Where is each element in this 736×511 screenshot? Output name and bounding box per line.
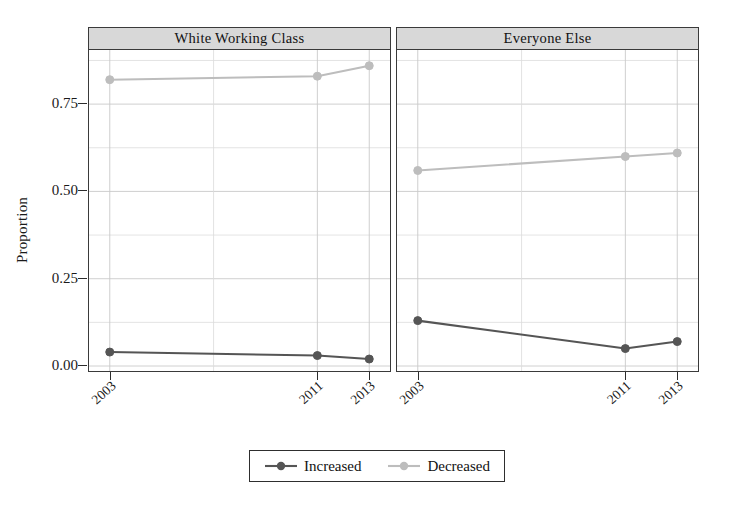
y-axis-tick-marks	[78, 0, 88, 511]
panel-everyone-else: Everyone Else	[396, 27, 699, 372]
y-axis-tick-labels: 0.000.250.500.75	[22, 0, 78, 511]
plot-area-1	[397, 50, 698, 371]
plot-canvas-0	[89, 50, 390, 371]
y-tick-label: 0.25	[22, 270, 78, 285]
x-tick-label: 2013	[656, 378, 687, 408]
y-tick-mark	[78, 190, 87, 191]
data-point	[365, 355, 373, 363]
x-tick-mark	[625, 372, 626, 380]
y-tick-mark	[78, 103, 87, 104]
panel-white-working-class: White Working Class	[88, 27, 391, 372]
x-tick-label: 2003	[396, 378, 427, 408]
series-decreased	[414, 149, 681, 174]
x-tick-mark	[369, 372, 370, 380]
panel-strip-label-1: Everyone Else	[397, 28, 698, 50]
data-point	[106, 76, 114, 84]
legend-swatch-icon	[387, 459, 421, 473]
gridlines	[89, 50, 390, 371]
x-tick-label: 2013	[348, 378, 379, 408]
plot-area-0	[89, 50, 390, 371]
panel-strip-label-0: White Working Class	[89, 28, 390, 50]
y-tick-mark	[78, 278, 87, 279]
y-tick-label: 0.00	[22, 358, 78, 373]
y-tick-mark	[78, 365, 87, 366]
legend-swatch-icon	[264, 459, 298, 473]
series-increased	[106, 348, 373, 363]
data-point	[313, 352, 321, 360]
legend-item-decreased: Decreased	[387, 458, 489, 475]
plot-canvas-1	[397, 50, 698, 371]
data-point	[414, 317, 422, 325]
data-point	[621, 345, 629, 353]
y-tick-label: 0.75	[22, 96, 78, 111]
x-tick-label: 2011	[296, 378, 326, 408]
data-point	[414, 166, 422, 174]
y-tick-label: 0.50	[22, 183, 78, 198]
data-point	[313, 72, 321, 80]
chart-legend: IncreasedDecreased	[249, 450, 505, 482]
data-point	[673, 149, 681, 157]
series-decreased	[106, 62, 373, 84]
data-point	[673, 338, 681, 346]
data-point	[365, 62, 373, 70]
chart-figure: Proportion 0.000.250.500.75 White Workin…	[0, 0, 736, 511]
x-tick-label: 2011	[604, 378, 634, 408]
x-tick-mark	[677, 372, 678, 380]
x-tick-label: 2003	[88, 378, 119, 408]
legend-item-increased: Increased	[264, 458, 361, 475]
legend-label: Decreased	[427, 458, 489, 475]
legend-label: Increased	[304, 458, 361, 475]
x-tick-mark	[317, 372, 318, 380]
data-point	[106, 348, 114, 356]
data-point	[621, 153, 629, 161]
